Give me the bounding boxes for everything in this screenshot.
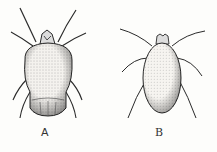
illustration-plate: A: [0, 0, 217, 152]
figure-label-b: B: [155, 127, 163, 138]
figure-a: A: [0, 0, 108, 152]
mite-a-drawing: [0, 0, 108, 152]
figure-label-a: A: [41, 127, 49, 138]
figure-b: B: [108, 0, 217, 152]
